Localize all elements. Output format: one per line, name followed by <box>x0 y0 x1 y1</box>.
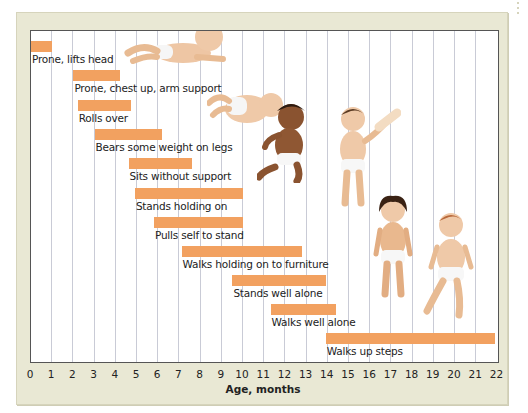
milestone-bar <box>232 275 325 286</box>
x-tick-label: 1 <box>48 368 55 380</box>
x-tick-label: 6 <box>154 368 161 380</box>
x-tick-label: 17 <box>384 368 397 380</box>
milestone-label: Bears some weight on legs <box>96 141 233 153</box>
x-axis-label: Age, months <box>226 383 301 395</box>
milestone-bar <box>154 217 243 228</box>
plot-area: Prone, lifts headProne, chest up, arm su… <box>30 30 499 363</box>
x-tick-label: 12 <box>278 368 291 380</box>
decorative-dots <box>517 2 520 17</box>
milestone-label: Walks up steps <box>327 345 403 357</box>
milestone-bar <box>73 70 120 81</box>
milestone-label: Rolls over <box>79 112 128 124</box>
milestone-label: Pulls self to stand <box>155 229 244 241</box>
milestone-bar <box>31 41 52 52</box>
x-tick-label: 22 <box>490 368 503 380</box>
gridline <box>51 31 52 362</box>
baby-standing-alone-icon <box>371 194 415 300</box>
x-tick-label: 21 <box>469 368 482 380</box>
milestone-bar <box>135 188 243 199</box>
x-tick-label: 7 <box>175 368 182 380</box>
milestone-bar <box>271 304 337 315</box>
milestone-bar <box>95 129 163 140</box>
milestone-bar <box>129 158 193 169</box>
x-tick-label: 14 <box>320 368 333 380</box>
milestone-bar <box>78 100 131 111</box>
milestone-bar <box>326 333 496 344</box>
milestone-label: Sits without support <box>130 170 232 182</box>
milestone-label: Walks holding on to furniture <box>183 258 329 270</box>
gridline <box>263 31 264 362</box>
x-tick-label: 2 <box>69 368 76 380</box>
baby-prone-lifting-head-icon <box>123 30 233 71</box>
milestone-bar <box>182 246 303 257</box>
x-tick-label: 4 <box>111 368 118 380</box>
x-tick-label: 16 <box>363 368 376 380</box>
x-tick-label: 18 <box>405 368 418 380</box>
milestone-label: Walks well alone <box>272 316 356 328</box>
x-tick-label: 10 <box>235 368 248 380</box>
baby-sitting-icon <box>257 101 317 183</box>
x-tick-label: 9 <box>217 368 224 380</box>
milestone-label: Stands holding on <box>136 200 227 212</box>
x-tick-label: 19 <box>426 368 439 380</box>
x-tick-label: 11 <box>257 368 270 380</box>
x-tick-label: 5 <box>133 368 140 380</box>
milestone-label: Prone, chest up, arm support <box>74 82 221 94</box>
x-tick-label: 13 <box>299 368 312 380</box>
milestone-label: Stands well alone <box>233 287 322 299</box>
x-tick-label: 8 <box>196 368 203 380</box>
x-tick-label: 0 <box>27 368 34 380</box>
x-tick-label: 15 <box>341 368 354 380</box>
milestone-label: Prone, lifts head <box>32 53 114 65</box>
x-tick-label: 20 <box>447 368 460 380</box>
x-tick-label: 3 <box>90 368 97 380</box>
baby-walking-icon <box>423 209 477 321</box>
